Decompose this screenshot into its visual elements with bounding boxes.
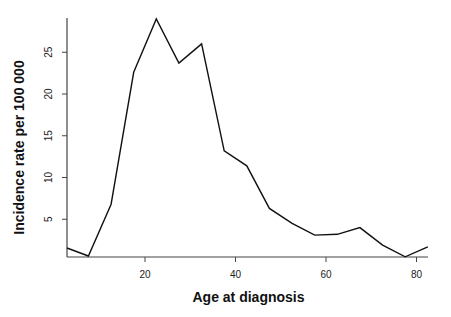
x-tick-label: 20 xyxy=(139,269,151,280)
y-tick-label: 15 xyxy=(43,130,54,142)
x-tick-label: 40 xyxy=(230,269,242,280)
line-chart: 20406080 510152025 Age at diagnosis Inci… xyxy=(0,0,451,317)
x-tick-label: 60 xyxy=(320,269,332,280)
x-axis-ticks: 20406080 xyxy=(139,257,422,280)
y-tick-label: 5 xyxy=(43,216,54,222)
y-axis-ticks: 510152025 xyxy=(43,46,67,222)
axes xyxy=(67,18,428,257)
y-tick-label: 25 xyxy=(43,46,54,58)
y-axis-title: Incidence rate per 100 000 xyxy=(11,60,27,235)
incidence-line xyxy=(67,19,428,257)
y-tick-label: 20 xyxy=(43,88,54,100)
x-tick-label: 80 xyxy=(411,269,423,280)
y-tick-label: 10 xyxy=(43,172,54,184)
x-axis-title: Age at diagnosis xyxy=(192,289,304,305)
